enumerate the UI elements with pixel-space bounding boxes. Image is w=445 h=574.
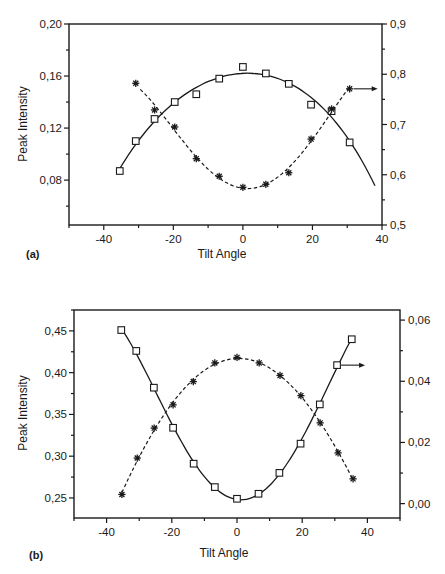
- left-y-tick-label: 0,16: [40, 70, 62, 82]
- series-squares: [118, 327, 365, 502]
- asterisk-marker: [297, 392, 304, 399]
- right-y-tick-label: 0,5: [390, 219, 406, 231]
- x-tick-label: 40: [361, 526, 374, 538]
- series-squares: [116, 64, 375, 186]
- x-tick-label: -40: [98, 526, 115, 538]
- asterisk-marker: [349, 475, 356, 482]
- asterisk-marker: [216, 173, 223, 180]
- asterisk-marker: [134, 454, 141, 461]
- asterisk-marker: [193, 155, 200, 162]
- right-y-tick-label: 0,8: [390, 68, 406, 80]
- square-marker: [151, 116, 158, 123]
- square-marker: [297, 440, 304, 447]
- asterisk-marker: [328, 105, 335, 112]
- arrow-right-icon: [354, 86, 378, 91]
- left-y-tick-label: 0,35: [45, 408, 67, 420]
- asterisk-marker: [151, 424, 158, 431]
- left-y-tick-label: 0,40: [45, 367, 67, 379]
- asterisk-marker: [211, 359, 218, 366]
- arrow-right-icon: [341, 363, 365, 368]
- x-tick-label: 20: [306, 233, 319, 245]
- square-marker: [276, 470, 283, 477]
- left-y-tick-label: 0,45: [45, 325, 67, 337]
- figure: -40-20020400,080,120,160,200,50,60,70,80…: [0, 0, 445, 574]
- y-axis-title-b: Peak Intensity: [16, 375, 30, 450]
- asterisk-marker: [151, 106, 158, 113]
- square-marker: [118, 327, 125, 334]
- square-marker: [216, 75, 223, 82]
- square-marker: [255, 490, 262, 497]
- square-marker: [240, 64, 247, 71]
- square-marker: [263, 70, 270, 77]
- series-asterisks: [118, 354, 356, 498]
- right-y-tick-label: 0,06: [408, 314, 430, 326]
- right-y-tick-label: 0,04: [408, 375, 431, 387]
- asterisk-marker: [118, 491, 125, 498]
- right-y-tick-label: 0,02: [408, 436, 430, 448]
- x-tick-label: -40: [95, 233, 112, 245]
- x-axis-title-b: Tilt Angle: [200, 546, 249, 560]
- asterisk-marker: [170, 401, 177, 408]
- square-marker: [193, 91, 200, 98]
- plot-area-b: -40-20020400,250,300,350,400,450,000,020…: [45, 310, 431, 538]
- asterisk-marker: [190, 378, 197, 385]
- square-marker: [190, 460, 197, 467]
- asterisk-marker: [132, 80, 139, 87]
- asterisk-marker: [256, 359, 263, 366]
- right-y-tick-label: 0,6: [390, 169, 406, 181]
- asterisk-marker: [239, 184, 246, 191]
- fit-curve-squares: [120, 73, 375, 186]
- plot-area-a: -40-20020400,080,120,160,200,50,60,70,80…: [40, 18, 406, 245]
- chart-panel-a: -40-20020400,080,120,160,200,50,60,70,80…: [16, 18, 406, 261]
- y-axis-title-a: Peak Intensity: [16, 86, 30, 161]
- x-tick-label: 40: [376, 233, 389, 245]
- x-tick-label: -20: [165, 233, 182, 245]
- right-y-tick-label: 0,00: [408, 498, 430, 510]
- x-axis-title-a: Tilt Angle: [198, 247, 247, 261]
- left-y-tick-label: 0,30: [45, 450, 67, 462]
- left-y-tick-label: 0,12: [40, 122, 62, 134]
- square-marker: [151, 384, 158, 391]
- square-marker: [308, 101, 315, 108]
- plot-frame: [69, 24, 382, 225]
- panel-label-b: (b): [29, 549, 43, 561]
- square-marker: [334, 362, 341, 369]
- x-tick-label: 0: [234, 526, 240, 538]
- asterisk-marker: [262, 181, 269, 188]
- asterisk-marker: [171, 123, 178, 130]
- left-y-tick-label: 0,25: [45, 492, 67, 504]
- square-marker: [234, 495, 241, 502]
- square-marker: [348, 336, 355, 343]
- chart-panel-b: -40-20020400,250,300,350,400,450,000,020…: [16, 310, 431, 561]
- asterisk-marker: [307, 135, 314, 142]
- square-marker: [285, 81, 292, 88]
- right-y-tick-label: 0,9: [390, 18, 406, 30]
- square-marker: [116, 168, 123, 175]
- square-marker: [317, 401, 324, 408]
- square-marker: [170, 424, 177, 431]
- square-marker: [171, 99, 178, 106]
- left-y-tick-label: 0,08: [40, 174, 62, 186]
- x-tick-label: 20: [296, 526, 309, 538]
- series-asterisks: [132, 80, 377, 191]
- left-y-tick-label: 0,20: [40, 18, 62, 30]
- right-y-tick-label: 0,7: [390, 119, 406, 131]
- square-marker: [212, 484, 219, 491]
- asterisk-marker: [346, 85, 353, 92]
- asterisk-marker: [276, 372, 283, 379]
- square-marker: [346, 139, 353, 146]
- panel-label-a: (a): [26, 248, 40, 260]
- x-tick-label: 0: [240, 233, 246, 245]
- asterisk-marker: [233, 354, 240, 361]
- x-tick-label: -20: [163, 526, 180, 538]
- asterisk-marker: [285, 169, 292, 176]
- square-marker: [132, 138, 139, 145]
- square-marker: [133, 348, 140, 355]
